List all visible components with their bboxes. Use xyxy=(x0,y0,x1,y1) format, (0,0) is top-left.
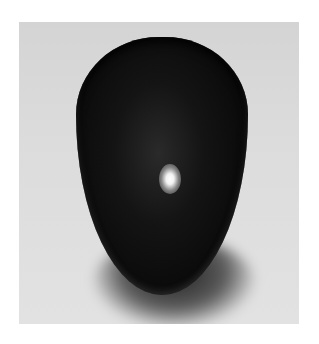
product-photo xyxy=(19,22,299,324)
specular-highlight xyxy=(159,164,181,194)
